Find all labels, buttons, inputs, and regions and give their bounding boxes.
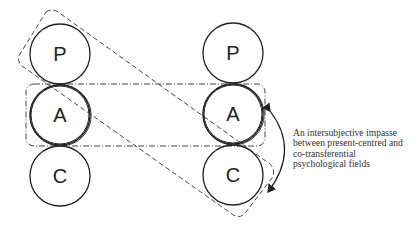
right-parent-label: P: [226, 42, 239, 64]
left-adult-label: A: [53, 104, 67, 126]
caption-line: psychological fields: [293, 159, 417, 169]
left-ego-state-column: P A C: [30, 24, 91, 206]
left-child-label: C: [53, 165, 67, 187]
right-ego-state-column: P A C: [203, 23, 264, 205]
right-child-label: C: [226, 164, 240, 186]
diagram-canvas: P A C P A C: [0, 0, 417, 227]
right-adult-label: A: [226, 103, 240, 125]
left-parent-label: P: [53, 43, 66, 65]
impasse-caption: An intersubjective impasse between prese…: [293, 128, 417, 170]
